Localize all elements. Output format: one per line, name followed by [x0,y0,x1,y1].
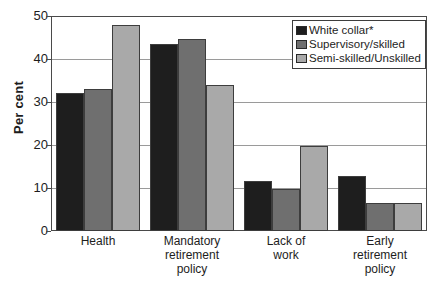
y-tick-label-20: 20 [14,138,48,151]
y-tick-label-50: 50 [14,9,48,22]
y-tick-mark-0 [46,231,51,232]
legend-swatch-icon [296,40,307,49]
x-axis-category-label: Earlyretirementpolicy [325,234,435,276]
legend-label: Supervisory/skilled [309,38,405,50]
legend-label: Semi-skilled/Unskilled [309,52,421,64]
legend-item: Semi-skilled/Unskilled [296,51,421,65]
bar [150,44,178,231]
bar [394,203,422,231]
x-axis-category-line: policy [137,262,247,276]
bar [206,85,234,231]
bar [56,93,84,231]
legend-item: White collar* [296,23,421,37]
x-axis-category-line: retirement [325,248,435,262]
y-tick-label-40: 40 [14,52,48,65]
x-axis-category-line: Early [325,234,435,248]
legend-item: Supervisory/skilled [296,37,421,51]
x-axis-category-line: policy [325,262,435,276]
bar [300,146,328,231]
legend: White collar*Supervisory/skilledSemi-ski… [292,20,426,69]
bar [178,39,206,231]
legend-swatch-icon [296,26,307,35]
legend-swatch-icon [296,54,307,63]
x-axis-labels: HealthMandatoryretirementpolicyLack ofwo… [51,234,427,286]
bar [84,89,112,231]
y-tick-label-10: 10 [14,181,48,194]
legend-label: White collar* [309,24,374,36]
bar-chart: Per cent 01020304050 HealthMandatoryreti… [0,0,440,286]
bar [366,203,394,231]
y-tick-label-30: 30 [14,95,48,108]
bar [244,181,272,231]
bar [272,189,300,231]
bar [338,176,366,231]
bar [112,25,140,231]
